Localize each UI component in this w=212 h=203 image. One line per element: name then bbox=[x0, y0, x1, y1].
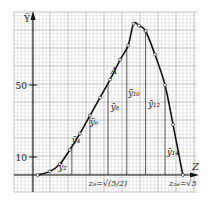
curve-point bbox=[119, 58, 122, 61]
grid-major bbox=[14, 12, 197, 192]
chart: 1050ȲZ ȳ₂ȳ₄ȳ₆ȳ₈ȳ₁₀ȳ₁₂ȳ₁₄Az₈=√(5/2)z₁₆=√5 bbox=[0, 0, 212, 203]
annotation-label: z₁₆=√5 bbox=[168, 179, 197, 188]
curve-point bbox=[36, 174, 39, 177]
y-axis-label: Ȳ bbox=[23, 13, 31, 24]
annotation-label: ȳ₁₀ bbox=[127, 88, 140, 98]
curve-point bbox=[99, 96, 102, 99]
curve-point bbox=[172, 123, 175, 126]
x-axis-label: Z bbox=[191, 161, 200, 172]
curve-point bbox=[163, 84, 166, 87]
x-axis-arrow-icon bbox=[190, 173, 199, 178]
annotation-label: ȳ₂ bbox=[57, 162, 67, 172]
annotation-label: ȳ₈ bbox=[110, 102, 120, 112]
curve-line bbox=[38, 23, 183, 175]
y-tick-label: 50 bbox=[16, 81, 28, 91]
curve-point bbox=[109, 78, 112, 81]
curve-point bbox=[68, 148, 71, 151]
axes: 1050ȲZ bbox=[14, 11, 200, 192]
curve-point bbox=[127, 44, 130, 47]
annotation-label: ȳ₄ bbox=[71, 135, 81, 145]
annotation-label: A bbox=[110, 66, 117, 76]
curve-point bbox=[132, 22, 135, 25]
y-tick-label: 10 bbox=[16, 153, 28, 163]
curve-point bbox=[181, 174, 184, 177]
curve-point bbox=[144, 30, 147, 33]
annotation-label: ȳ₆ bbox=[89, 117, 99, 127]
annotation-label: ȳ₁₂ bbox=[147, 99, 160, 109]
curve bbox=[36, 22, 184, 176]
curve-point bbox=[153, 53, 156, 56]
curve-point bbox=[137, 24, 140, 27]
annotation-label: z₈=√(5/2) bbox=[88, 179, 127, 188]
annotation-label: ȳ₁₄ bbox=[166, 147, 179, 157]
curve-point bbox=[48, 170, 51, 173]
